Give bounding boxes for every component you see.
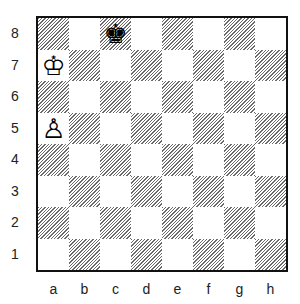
square-h4: [255, 144, 286, 176]
file-label: h: [255, 281, 286, 297]
square-b1: [69, 239, 100, 271]
square-h1: [255, 239, 286, 271]
square-a7: ♔: [38, 50, 69, 82]
square-e8: [162, 18, 193, 50]
square-f1: [193, 239, 224, 271]
square-f8: [193, 18, 224, 50]
square-f2: [193, 207, 224, 239]
file-label: b: [69, 281, 100, 297]
file-label: f: [193, 281, 224, 297]
square-b5: [69, 113, 100, 145]
square-c4: [100, 144, 131, 176]
file-label: a: [38, 281, 69, 297]
square-a6: [38, 81, 69, 113]
square-b4: [69, 144, 100, 176]
file-label: g: [224, 281, 255, 297]
chess-board: ♚♔♙: [36, 16, 288, 272]
square-g7: [224, 50, 255, 82]
square-b8: [69, 18, 100, 50]
square-d2: [131, 207, 162, 239]
rank-label: 2: [8, 214, 22, 230]
square-h6: [255, 81, 286, 113]
rank-label: 3: [8, 183, 22, 199]
square-c1: [100, 239, 131, 271]
square-h8: [255, 18, 286, 50]
square-d7: [131, 50, 162, 82]
rank-label: 1: [8, 246, 22, 262]
black-king-icon: ♚: [100, 18, 131, 50]
square-f7: [193, 50, 224, 82]
square-d8: [131, 18, 162, 50]
square-h7: [255, 50, 286, 82]
square-c8: ♚: [100, 18, 131, 50]
square-d5: [131, 113, 162, 145]
square-a8: [38, 18, 69, 50]
square-g6: [224, 81, 255, 113]
square-e1: [162, 239, 193, 271]
square-a5: ♙: [38, 113, 69, 145]
square-h2: [255, 207, 286, 239]
square-c6: [100, 81, 131, 113]
square-c7: [100, 50, 131, 82]
square-e4: [162, 144, 193, 176]
file-label: e: [162, 281, 193, 297]
white-pawn-icon: ♙: [38, 113, 69, 145]
square-a4: [38, 144, 69, 176]
square-g1: [224, 239, 255, 271]
file-label: d: [131, 281, 162, 297]
square-e6: [162, 81, 193, 113]
square-g3: [224, 176, 255, 208]
square-f6: [193, 81, 224, 113]
square-a3: [38, 176, 69, 208]
square-b6: [69, 81, 100, 113]
white-king-icon: ♔: [38, 50, 69, 82]
square-e3: [162, 176, 193, 208]
square-f5: [193, 113, 224, 145]
square-e5: [162, 113, 193, 145]
square-f3: [193, 176, 224, 208]
square-c2: [100, 207, 131, 239]
square-d1: [131, 239, 162, 271]
rank-label: 6: [8, 88, 22, 104]
square-c5: [100, 113, 131, 145]
square-a2: [38, 207, 69, 239]
square-b2: [69, 207, 100, 239]
square-d6: [131, 81, 162, 113]
square-c3: [100, 176, 131, 208]
square-g5: [224, 113, 255, 145]
square-e2: [162, 207, 193, 239]
square-e7: [162, 50, 193, 82]
square-h5: [255, 113, 286, 145]
square-d3: [131, 176, 162, 208]
rank-label: 8: [8, 25, 22, 41]
file-label: c: [100, 281, 131, 297]
square-b3: [69, 176, 100, 208]
square-h3: [255, 176, 286, 208]
square-a1: [38, 239, 69, 271]
square-g2: [224, 207, 255, 239]
rank-label: 7: [8, 57, 22, 73]
rank-label: 5: [8, 120, 22, 136]
square-g8: [224, 18, 255, 50]
rank-label: 4: [8, 151, 22, 167]
square-g4: [224, 144, 255, 176]
square-d4: [131, 144, 162, 176]
square-b7: [69, 50, 100, 82]
square-f4: [193, 144, 224, 176]
